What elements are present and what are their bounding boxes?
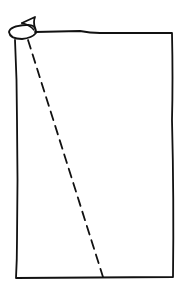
sheet-diagram	[0, 0, 187, 288]
diagram-canvas	[0, 0, 187, 288]
fold-line	[28, 40, 103, 277]
curled-corner-icon	[9, 17, 36, 39]
sheet-outline	[15, 31, 173, 278]
